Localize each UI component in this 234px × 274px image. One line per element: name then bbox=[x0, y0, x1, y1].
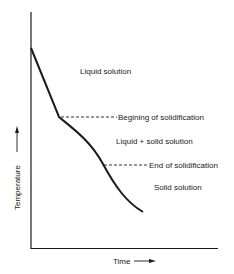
x-axis-arrow-icon bbox=[149, 259, 156, 263]
y-axis-label: Temperature bbox=[13, 165, 22, 210]
mixed-region-label: Liquid + solid solution bbox=[116, 137, 193, 146]
end-solidification-label: End of solidification bbox=[149, 161, 218, 170]
x-axis-label: Time bbox=[113, 257, 131, 266]
start-solidification-label: Begining of solidification bbox=[118, 113, 204, 122]
solid-region-label: Solid solution bbox=[154, 183, 202, 192]
liquid-region-label: Liquid solution bbox=[80, 67, 131, 76]
cooling-curve-diagram: Liquid solution Begining of solidificati… bbox=[0, 0, 234, 274]
y-axis-arrow-icon bbox=[15, 126, 19, 133]
